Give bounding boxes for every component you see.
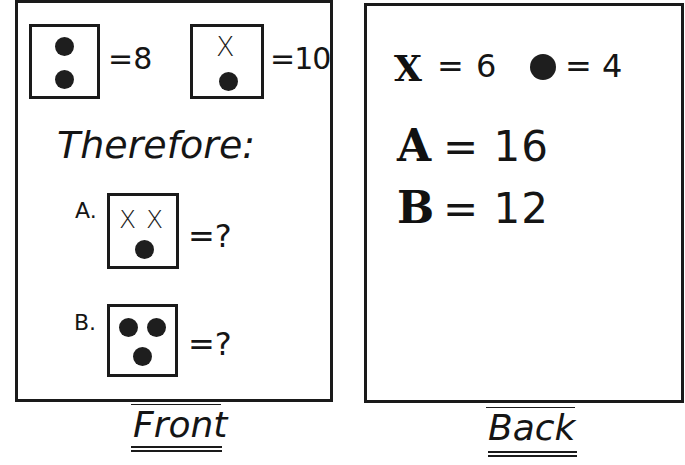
given-tile-x-dot: X xyxy=(190,24,264,99)
question-b-label: B. xyxy=(74,312,96,334)
back-x-symbol: X xyxy=(394,50,422,86)
back-label-underline xyxy=(488,451,577,453)
given-2-equation: =10 xyxy=(270,44,330,74)
back-label-underline xyxy=(488,455,577,457)
front-label-underline xyxy=(131,450,222,452)
back-label: Back xyxy=(488,410,575,446)
dot-icon xyxy=(55,70,74,89)
x-mark-icon: X xyxy=(119,207,136,232)
x-mark-icon: X xyxy=(216,33,235,60)
back-dot-equation: = 4 xyxy=(565,50,622,82)
therefore-label: Therefore: xyxy=(57,126,255,164)
question-a-equation: =? xyxy=(188,220,232,252)
dot-icon xyxy=(219,72,238,91)
given-tile-two-dots xyxy=(29,24,100,99)
front-label-underline xyxy=(131,446,222,448)
back-x-equation: = 6 xyxy=(437,50,496,82)
answer-b-equation: = 12 xyxy=(443,188,549,230)
answer-a-label: A xyxy=(397,124,431,168)
x-mark-icon: X xyxy=(146,207,163,232)
dot-icon xyxy=(133,347,152,366)
question-a-tile: X X xyxy=(107,193,179,269)
answer-b-label: B xyxy=(397,186,434,230)
question-b-tile xyxy=(107,304,178,377)
dot-icon xyxy=(530,54,556,80)
dot-icon xyxy=(119,318,138,337)
dot-icon xyxy=(135,240,154,259)
question-a-label: A. xyxy=(75,200,97,222)
dot-icon xyxy=(55,37,74,56)
dot-icon xyxy=(147,318,166,337)
question-b-equation: =? xyxy=(188,328,232,360)
front-label: Front xyxy=(133,407,227,443)
answer-a-equation: = 16 xyxy=(443,126,549,168)
given-1-equation: =8 xyxy=(108,44,152,74)
